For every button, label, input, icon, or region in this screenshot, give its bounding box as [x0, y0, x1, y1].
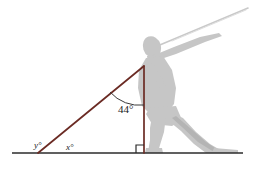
- angle-label-44: 44°: [118, 103, 133, 115]
- angle-label-x: x°: [65, 142, 74, 152]
- angle-label-y: y°: [33, 140, 42, 150]
- front-leg: [170, 112, 234, 153]
- javelin-thrower-silhouette: [138, 8, 248, 153]
- right-angle-marker: [136, 145, 144, 153]
- front-leg-shade: [172, 116, 218, 152]
- diagram-canvas: 44° x° y°: [0, 0, 255, 170]
- javelin-angle-diagram: 44° x° y°: [0, 0, 255, 170]
